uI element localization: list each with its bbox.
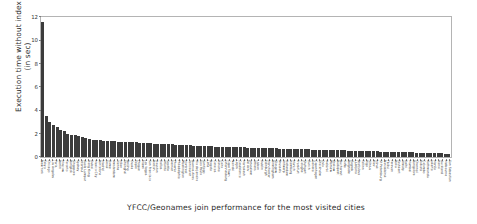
bar xyxy=(336,150,339,157)
bar xyxy=(106,141,109,157)
bar xyxy=(293,149,296,157)
bar xyxy=(365,151,368,157)
bar xyxy=(59,130,62,157)
bar xyxy=(390,152,393,157)
bar xyxy=(343,150,346,157)
bar xyxy=(167,144,170,157)
bar xyxy=(142,143,145,157)
bar xyxy=(88,139,91,157)
bar xyxy=(322,150,325,157)
bar xyxy=(66,134,69,157)
bar xyxy=(437,153,440,157)
bar xyxy=(286,149,289,157)
y-axis-tick-label: 10 xyxy=(31,37,41,43)
bar xyxy=(408,152,411,157)
y-axis-title: Execution time without index (in sec) xyxy=(14,0,33,131)
bar xyxy=(214,147,217,158)
bar xyxy=(332,150,335,157)
bar xyxy=(318,150,321,157)
bar xyxy=(429,153,432,157)
bar xyxy=(131,142,134,157)
bar xyxy=(386,152,389,157)
bar xyxy=(264,148,267,157)
bar xyxy=(153,144,156,157)
bar xyxy=(243,147,246,157)
bar xyxy=(358,151,361,157)
bar xyxy=(160,144,163,157)
bar xyxy=(379,152,382,157)
bar xyxy=(253,148,256,157)
bar xyxy=(63,131,66,157)
bar xyxy=(41,22,44,157)
x-axis-tick-label: San Sebastian xyxy=(448,160,452,182)
bar xyxy=(447,154,450,158)
bar xyxy=(354,151,357,157)
bar xyxy=(124,142,127,157)
bar xyxy=(128,142,131,157)
bar xyxy=(257,148,260,157)
bar xyxy=(185,145,188,157)
bar xyxy=(261,148,264,157)
bar xyxy=(415,153,418,157)
bar xyxy=(210,146,213,157)
bar xyxy=(347,151,350,157)
x-axis-tick-labels: New YorkTokyoChicagoLos AngelesParisBerl… xyxy=(40,159,452,199)
bar xyxy=(117,142,120,157)
bar xyxy=(189,145,192,157)
bar xyxy=(275,148,278,157)
bar xyxy=(246,148,249,157)
bar xyxy=(325,150,328,157)
bar xyxy=(278,149,281,157)
bar xyxy=(110,141,113,157)
plot-area: 024681012 xyxy=(40,16,452,158)
bar xyxy=(120,142,123,157)
bar xyxy=(56,127,59,157)
bar xyxy=(74,135,77,157)
bar xyxy=(181,145,184,157)
bar xyxy=(203,146,206,157)
bar xyxy=(419,153,422,157)
bar xyxy=(92,140,95,158)
bar xyxy=(376,151,379,157)
bar xyxy=(300,149,303,157)
bar xyxy=(397,152,400,157)
bar xyxy=(135,142,138,157)
y-axis-title-line1: Execution time without index xyxy=(14,1,23,112)
bar xyxy=(340,150,343,157)
bar xyxy=(401,152,404,157)
bar xyxy=(192,146,195,157)
bar xyxy=(368,151,371,157)
bar xyxy=(444,154,447,158)
bar xyxy=(361,151,364,157)
bar xyxy=(296,149,299,157)
bar xyxy=(99,140,102,157)
y-axis-title-line2: (in sec) xyxy=(23,42,32,70)
bar xyxy=(199,146,202,157)
y-axis-tick-label: 12 xyxy=(31,14,41,20)
bar xyxy=(404,152,407,157)
bar xyxy=(45,116,48,157)
bar xyxy=(239,147,242,157)
bar xyxy=(95,140,98,158)
bar xyxy=(48,122,51,157)
x-axis-title: YFCC/Geonames join performance for the m… xyxy=(40,203,452,212)
bar xyxy=(174,145,177,157)
x-axis-tick: San Sebastian xyxy=(448,159,452,199)
bar xyxy=(217,147,220,158)
bar xyxy=(282,149,285,157)
bar xyxy=(329,150,332,157)
bar xyxy=(383,152,386,157)
bar xyxy=(433,153,436,157)
bar xyxy=(393,152,396,157)
bar xyxy=(207,146,210,157)
bar xyxy=(81,137,84,157)
bar xyxy=(77,136,80,157)
bar xyxy=(411,152,414,157)
bar xyxy=(311,150,314,157)
bar xyxy=(250,148,253,157)
bar xyxy=(235,147,238,157)
bar xyxy=(271,148,274,157)
bar xyxy=(426,153,429,157)
bar-chart-figure: Execution time without index (in sec) 02… xyxy=(0,0,477,224)
bar xyxy=(372,151,375,157)
